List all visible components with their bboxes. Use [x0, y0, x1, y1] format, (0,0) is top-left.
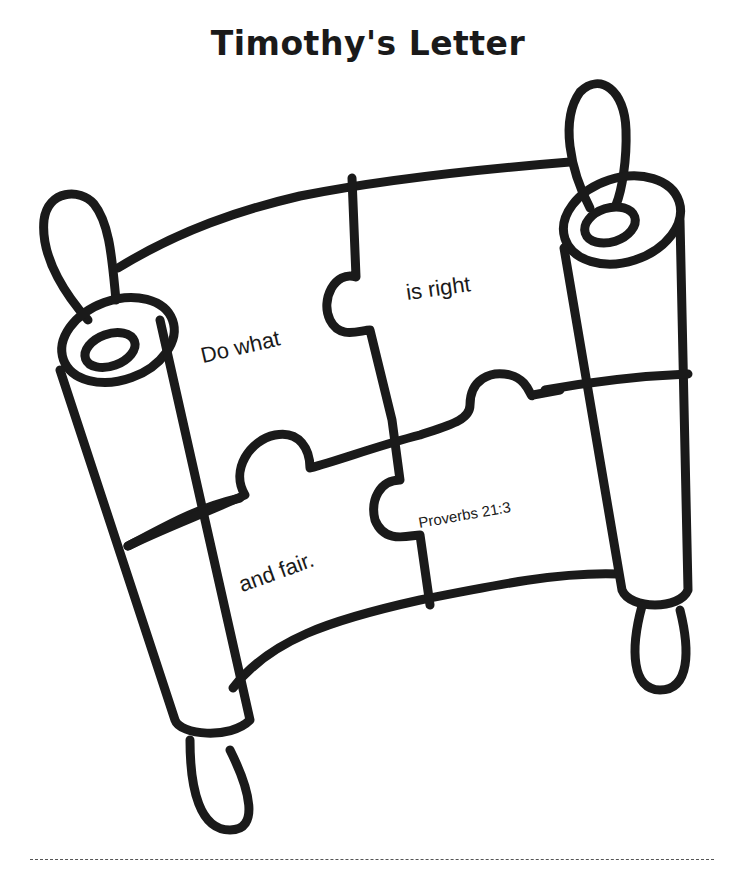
- right-roller-body: [564, 220, 688, 605]
- right-roller-split: [545, 374, 688, 390]
- cut-line-divider: [30, 859, 714, 860]
- scroll-top-edge: [118, 162, 570, 268]
- left-handle-bottom: [190, 740, 249, 830]
- right-handle-bottom: [635, 606, 686, 690]
- left-roller-inner-ring: [80, 326, 140, 374]
- puzzle-vertical-divider: [327, 178, 430, 605]
- scroll-illustration: [0, 0, 736, 871]
